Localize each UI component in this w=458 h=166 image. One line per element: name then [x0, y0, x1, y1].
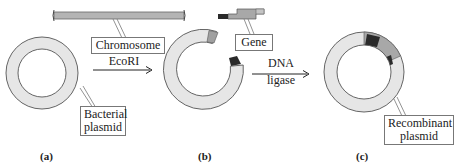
recombinant-plasmid-label: Recombinant plasmid — [384, 115, 454, 145]
gene-label-text: Gene — [241, 35, 266, 49]
panel-label-c: (c) — [356, 150, 368, 162]
cut-plasmid-ring — [163, 29, 243, 109]
dna-ligase-label: DNA ligase — [261, 57, 301, 87]
dna-ligase-label-line1: DNA — [261, 57, 301, 70]
gene-fragment — [218, 9, 264, 34]
bacterial-plasmid-ring — [6, 37, 96, 109]
bacterial-plasmid-label: Bacterial plasmid — [80, 106, 126, 136]
ecori-label-text: EcoRI — [109, 54, 140, 68]
panel-label-b: (b) — [198, 150, 211, 162]
ecori-label: EcoRI — [104, 55, 144, 68]
gene-label: Gene — [235, 34, 273, 51]
chromosome-label-text: Chromosome — [96, 38, 161, 52]
dna-ligase-label-line2: ligase — [261, 74, 301, 87]
recombinant-plasmid-ring — [324, 32, 406, 116]
panel-label-a: (a) — [40, 150, 53, 162]
chromosome-label: Chromosome — [91, 37, 165, 54]
recombinant-dna-diagram: Chromosome Gene Bacterial plasmid Recomb… — [0, 0, 458, 166]
chromosome-bar — [53, 10, 185, 38]
recombinant-plasmid-label-line2: plasmid — [388, 130, 450, 143]
bacterial-plasmid-label-line2: plasmid — [84, 121, 122, 134]
